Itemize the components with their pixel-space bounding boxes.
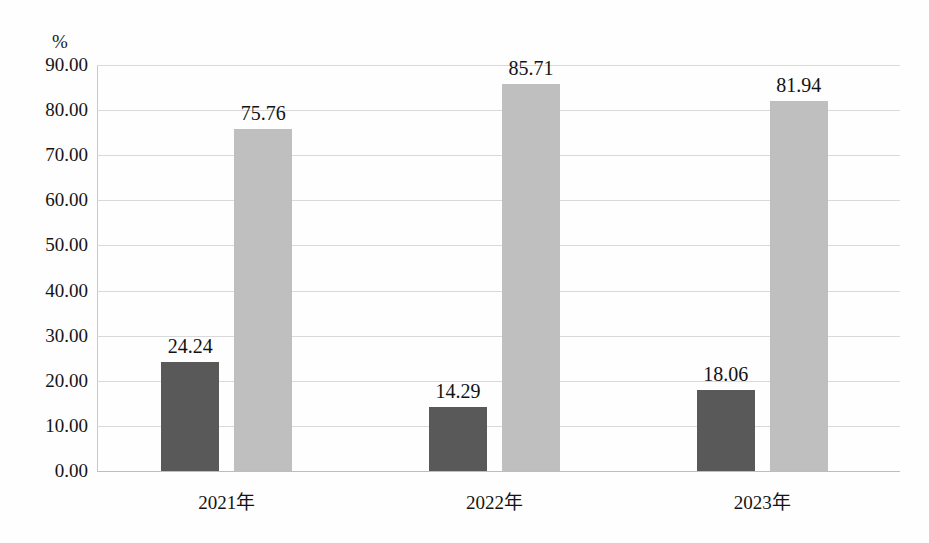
y-axis-tick-label: 10.00 — [4, 415, 88, 437]
y-axis-tick-label: 20.00 — [4, 370, 88, 392]
bar-series-b-0[interactable] — [234, 129, 292, 471]
gridline — [97, 65, 900, 66]
bar-series-a-1[interactable] — [429, 407, 487, 471]
bar-value-label: 81.94 — [776, 74, 821, 97]
x-axis-tick-label: 2021年 — [198, 487, 255, 514]
bar-series-b-2[interactable] — [770, 101, 828, 471]
bar-series-a-0[interactable] — [161, 362, 219, 471]
y-axis-unit-label: % — [52, 31, 68, 53]
y-axis-tick-label: 70.00 — [4, 144, 88, 166]
bar-value-label: 85.71 — [509, 57, 554, 80]
y-axis-tick-label: 30.00 — [4, 325, 88, 347]
y-axis-tick-label: 80.00 — [4, 99, 88, 121]
bar-value-label: 14.29 — [436, 380, 481, 403]
y-axis-tick-label: 50.00 — [4, 234, 88, 256]
x-axis-tick-label: 2023年 — [734, 487, 791, 514]
gridline — [97, 471, 900, 472]
bar-series-a-2[interactable] — [697, 390, 755, 471]
bar-value-label: 75.76 — [241, 102, 286, 125]
bar-value-label: 24.24 — [168, 335, 213, 358]
y-axis-tick-label: 60.00 — [4, 189, 88, 211]
bar-value-label: 18.06 — [703, 363, 748, 386]
y-axis-tick-label: 40.00 — [4, 280, 88, 302]
plot-area: 24.2475.7614.2985.7118.0681.94 — [97, 65, 900, 471]
bar-series-b-1[interactable] — [502, 84, 560, 471]
y-axis-line — [97, 65, 98, 471]
y-axis-tick-label: 90.00 — [4, 54, 88, 76]
x-axis-tick-label: 2022年 — [466, 487, 523, 514]
chart-page: % 90.0080.0070.0060.0050.0040.0030.0020.… — [0, 0, 929, 543]
y-axis-tick-labels: 90.0080.0070.0060.0050.0040.0030.0020.00… — [0, 65, 88, 471]
y-axis-tick-label: 0.00 — [4, 460, 88, 482]
